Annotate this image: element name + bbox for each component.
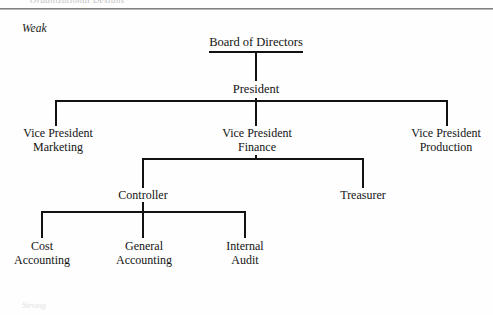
header-rule — [0, 8, 493, 10]
node-vice-president-marketing-line2: Marketing — [6, 140, 110, 154]
node-vice-president-finance: Vice President Finance — [205, 126, 309, 154]
connector-to-treasurer — [362, 158, 364, 188]
node-general-accounting: General Accounting — [98, 239, 190, 267]
node-president: President — [207, 82, 305, 97]
node-president-label: President — [207, 82, 305, 97]
node-internal-audit-line2: Audit — [202, 253, 288, 267]
node-treasurer-label: Treasurer — [318, 188, 408, 202]
running-head-text: Organizational Designs — [30, 0, 125, 3]
node-vice-president-marketing: Vice President Marketing — [6, 126, 110, 154]
connector-to-cost-accounting — [41, 211, 43, 238]
node-cost-accounting: Cost Accounting — [0, 239, 86, 267]
connector-president-stem — [255, 98, 257, 126]
connector-finance-bus — [142, 158, 363, 160]
bottom-caption-text: Strong — [22, 300, 46, 310]
connector-to-vp-marketing — [55, 100, 57, 126]
node-vice-president-production-line1: Vice President — [394, 126, 493, 140]
org-chart-page: Organizational Designs Strong Weak Board… — [0, 0, 493, 315]
connector-to-vp-production — [446, 100, 448, 126]
connector-to-general-accounting — [142, 211, 144, 238]
node-vice-president-finance-line2: Finance — [205, 140, 309, 154]
node-internal-audit: Internal Audit — [202, 239, 288, 267]
node-board-of-directors: Board of Directors — [202, 35, 310, 53]
node-controller: Controller — [96, 188, 190, 202]
connector-to-controller — [142, 158, 144, 188]
node-cost-accounting-line2: Accounting — [0, 253, 86, 267]
node-controller-label: Controller — [96, 188, 190, 202]
node-treasurer: Treasurer — [318, 188, 408, 202]
node-vice-president-marketing-line1: Vice President — [6, 126, 110, 140]
node-general-accounting-line2: Accounting — [98, 253, 190, 267]
node-board-of-directors-label: Board of Directors — [209, 35, 303, 53]
connector-finance-stem — [255, 155, 257, 159]
node-internal-audit-line1: Internal — [202, 239, 288, 253]
node-cost-accounting-line1: Cost — [0, 239, 86, 253]
connector-to-internal-audit — [244, 211, 246, 238]
node-vice-president-production: Vice President Production — [394, 126, 493, 154]
connector-president-bus — [55, 100, 448, 102]
section-label-weak: Weak — [22, 22, 46, 34]
node-vice-president-production-line2: Production — [394, 140, 493, 154]
node-general-accounting-line1: General — [98, 239, 190, 253]
node-vice-president-finance-line1: Vice President — [205, 126, 309, 140]
connector-board-to-president — [255, 52, 257, 81]
